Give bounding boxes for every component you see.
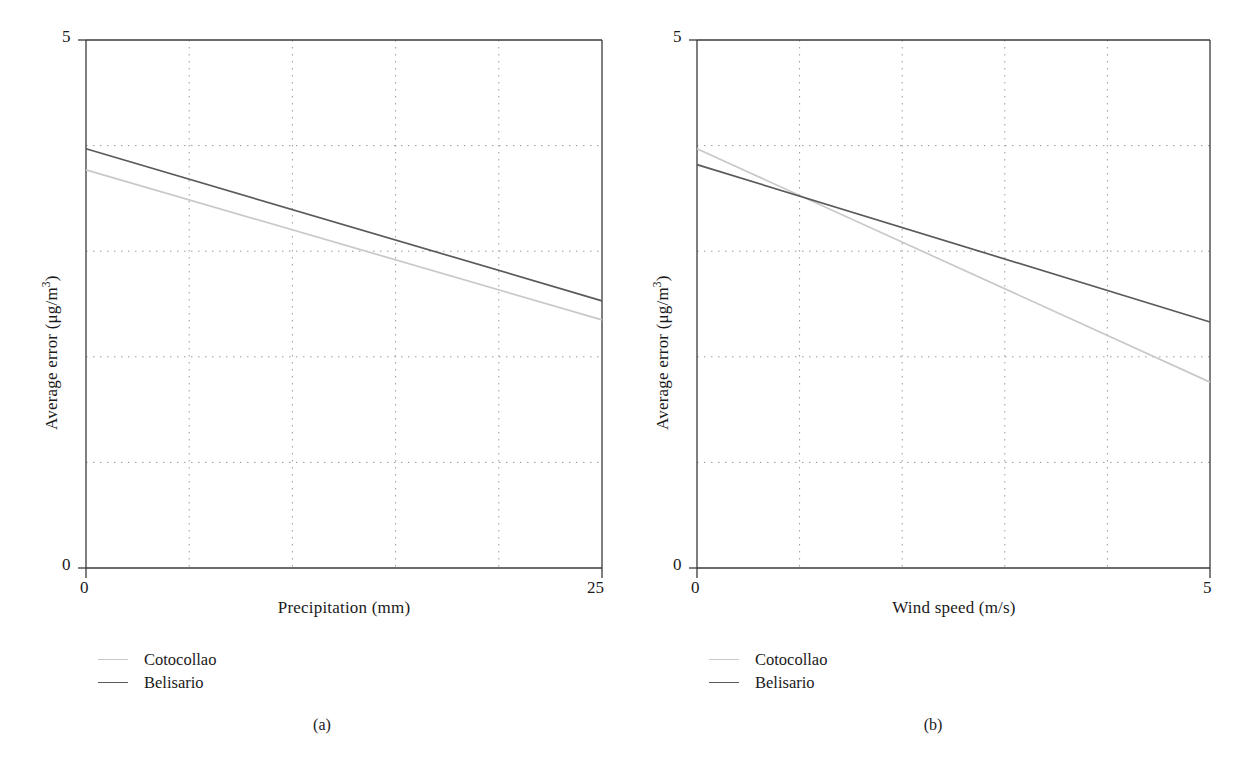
y-axis-title-a: Average error (μg/m3) bbox=[42, 275, 62, 430]
y-axis-title-prefix-b: Average error (μg/m bbox=[653, 287, 672, 430]
legend-label-cotocollao-b: Cotocollao bbox=[755, 650, 827, 670]
axis-ticks-b bbox=[689, 40, 1210, 578]
y-tick-top-a: 5 bbox=[62, 27, 71, 47]
legend-item-belisario-a: Belisario bbox=[98, 671, 216, 694]
y-axis-title-suffix-b: ) bbox=[653, 275, 672, 281]
legend-swatch-cotocollao-icon bbox=[709, 659, 739, 660]
y-axis-title-b: Average error (μg/m3) bbox=[653, 275, 673, 430]
series-line-belisario-a bbox=[86, 149, 602, 301]
legend-swatch-belisario-icon bbox=[98, 682, 128, 683]
series-line-cotocollao-b bbox=[697, 149, 1210, 382]
y-axis-title-exponent-b: 3 bbox=[651, 281, 664, 287]
plot-area-b bbox=[623, 0, 1246, 640]
legend-a: Cotocollao Belisario bbox=[98, 648, 216, 694]
y-tick-top-b: 5 bbox=[673, 27, 682, 47]
x-tick-left-a: 0 bbox=[80, 578, 89, 598]
y-axis-title-suffix-a: ) bbox=[42, 275, 61, 281]
legend-label-belisario-a: Belisario bbox=[144, 673, 204, 693]
y-tick-bottom-b: 0 bbox=[673, 555, 682, 575]
y-axis-title-prefix-a: Average error (μg/m bbox=[42, 287, 61, 430]
axis-ticks-a bbox=[78, 40, 602, 578]
series-line-cotocollao-a bbox=[86, 170, 602, 320]
axis-frame-b bbox=[697, 40, 1210, 568]
y-tick-bottom-a: 0 bbox=[62, 555, 71, 575]
x-tick-right-a: 25 bbox=[587, 578, 604, 598]
plot-area-a bbox=[0, 0, 623, 640]
x-tick-left-b: 0 bbox=[691, 578, 700, 598]
grid-vertical-a bbox=[189, 40, 499, 568]
legend-item-cotocollao-b: Cotocollao bbox=[709, 648, 827, 671]
panel-caption-b: (b) bbox=[883, 716, 983, 734]
x-axis-title-b: Wind speed (m/s) bbox=[754, 598, 1154, 618]
panel-caption-a: (a) bbox=[272, 716, 372, 734]
figure-container: 5 0 0 25 Average error (μg/m3) Precipita… bbox=[0, 0, 1246, 766]
x-axis-title-a: Precipitation (mm) bbox=[144, 598, 544, 618]
y-axis-title-exponent-a: 3 bbox=[40, 281, 53, 287]
x-tick-right-b: 5 bbox=[1203, 578, 1212, 598]
legend-item-belisario-b: Belisario bbox=[709, 671, 827, 694]
legend-label-belisario-b: Belisario bbox=[755, 673, 815, 693]
legend-swatch-belisario-icon bbox=[709, 682, 739, 683]
panel-a: 5 0 0 25 Average error (μg/m3) Precipita… bbox=[0, 0, 623, 766]
legend-swatch-cotocollao-icon bbox=[98, 659, 128, 660]
series-line-belisario-b bbox=[697, 165, 1210, 322]
legend-label-cotocollao-a: Cotocollao bbox=[144, 650, 216, 670]
grid-horizontal-b bbox=[697, 146, 1210, 463]
legend-b: Cotocollao Belisario bbox=[709, 648, 827, 694]
panel-b: 5 0 0 5 Average error (μg/m3) Wind speed… bbox=[623, 0, 1246, 766]
legend-item-cotocollao-a: Cotocollao bbox=[98, 648, 216, 671]
axis-frame-a bbox=[86, 40, 602, 568]
grid-vertical-b bbox=[800, 40, 1108, 568]
